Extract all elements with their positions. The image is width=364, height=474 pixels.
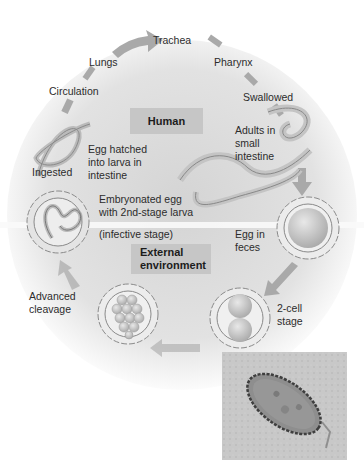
cleavage-line1: Advanced bbox=[29, 290, 76, 303]
egg-embryonated-illustration bbox=[27, 191, 89, 253]
egg-advanced-cleavage-illustration bbox=[98, 284, 158, 344]
label-swallowed: Swallowed bbox=[243, 91, 293, 104]
label-advanced-cleavage: Advanced cleavage bbox=[29, 290, 76, 316]
external-label-line1: External bbox=[140, 246, 211, 259]
ascaris-life-cycle-diagram: Human External environment Trachea Lungs… bbox=[0, 0, 364, 474]
egg-in-feces-illustration bbox=[277, 197, 339, 259]
feces-line2: feces bbox=[235, 241, 265, 254]
label-2-cell-stage: 2-cell stage bbox=[277, 302, 303, 328]
two-cell-line1: 2-cell bbox=[277, 302, 303, 315]
embryonated-line1: Embryonated egg bbox=[99, 193, 193, 206]
hatched-line1: Egg hatched bbox=[88, 143, 147, 156]
adults-line2: small bbox=[235, 137, 275, 150]
egg-2-cell-illustration bbox=[210, 288, 270, 348]
embryonated-line2: with 2nd-stage larva bbox=[99, 206, 193, 219]
label-egg-hatched: Egg hatched into larva in intestine bbox=[88, 143, 147, 182]
micrograph-egg-image bbox=[222, 352, 347, 460]
external-environment-zone-label: External environment bbox=[131, 244, 211, 274]
hatched-line3: intestine bbox=[88, 169, 147, 182]
label-infective-stage: (infective stage) bbox=[99, 228, 173, 241]
human-label-text: Human bbox=[148, 115, 185, 127]
egg-micrograph-photo bbox=[222, 352, 347, 460]
label-embryonated-egg: Embryonated egg with 2nd-stage larva bbox=[99, 193, 193, 219]
label-ingested: Ingested bbox=[32, 166, 72, 179]
label-egg-in-feces: Egg in feces bbox=[235, 228, 265, 254]
cleavage-line2: cleavage bbox=[29, 303, 76, 316]
adults-line1: Adults in bbox=[235, 124, 275, 137]
external-label-line2: environment bbox=[140, 259, 211, 272]
two-cell-line2: stage bbox=[277, 315, 303, 328]
label-adults-in-small-intestine: Adults in small intestine bbox=[235, 124, 275, 163]
hatched-line2: into larva in bbox=[88, 156, 147, 169]
feces-line1: Egg in bbox=[235, 228, 265, 241]
label-circulation: Circulation bbox=[49, 85, 99, 98]
label-lungs: Lungs bbox=[89, 56, 118, 69]
human-zone-label: Human bbox=[130, 108, 203, 134]
label-trachea: Trachea bbox=[153, 34, 191, 47]
label-pharynx: Pharynx bbox=[214, 56, 253, 69]
adults-line3: intestine bbox=[235, 150, 275, 163]
